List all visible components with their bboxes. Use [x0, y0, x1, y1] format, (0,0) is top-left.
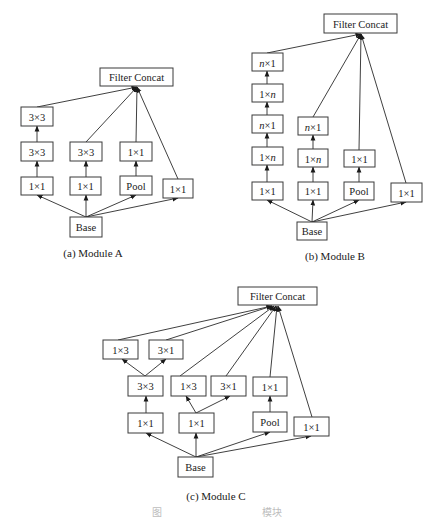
- arrow-edge: [312, 202, 406, 222]
- arrow-edge: [270, 306, 277, 377]
- node-label: 1×1: [259, 186, 275, 197]
- arrow-edge: [37, 195, 86, 217]
- node-label: 1×1: [137, 418, 153, 429]
- arrow-edge: [226, 306, 276, 376]
- node-label: 3×3: [29, 147, 45, 158]
- figure-caption-right: 模块: [262, 507, 282, 517]
- arrow-edge: [86, 198, 178, 217]
- conv-node: n×1: [298, 117, 328, 135]
- conv-node: Pool: [344, 182, 374, 200]
- node-label: Base: [76, 222, 97, 233]
- conv-node: 1×1: [21, 177, 53, 195]
- conv-node: 1×1: [128, 413, 163, 433]
- arrow-edge: [278, 306, 312, 417]
- boxes-layer: Filter Concat3×33×31×13×31×11×1Pool1×1Ba…: [21, 14, 422, 477]
- conv-node: Pool: [253, 412, 287, 432]
- node-label: 1×1: [351, 154, 367, 165]
- inception-modules-figure: Filter Concat3×33×31×13×31×11×1Pool1×1Ba…: [0, 0, 439, 517]
- node-label: 1×1: [305, 186, 321, 197]
- conv-node: n×1: [252, 115, 283, 133]
- base-node: Base: [297, 222, 327, 240]
- arrow-edge: [37, 87, 137, 107]
- conv-node: 1×1: [70, 177, 101, 195]
- arrow-edge: [313, 34, 361, 117]
- node-label: 3×3: [137, 381, 153, 392]
- conv-node: Pool: [120, 176, 152, 195]
- conv-node: n×1: [252, 53, 283, 71]
- node-label: 1×3: [112, 345, 128, 356]
- node-label: 1×1: [262, 382, 278, 393]
- base-node: Base: [178, 457, 213, 477]
- conv-node: 3×3: [21, 107, 53, 126]
- node-label: n×1: [305, 121, 321, 132]
- node-label: 3×3: [29, 112, 45, 123]
- conv-node: 3×1: [149, 340, 183, 359]
- conv-node: 1×1: [391, 183, 422, 202]
- node-label: Base: [302, 226, 323, 237]
- arrow-edge: [359, 34, 361, 150]
- conv-node: 3×1: [211, 376, 246, 396]
- arrow-edge: [122, 359, 145, 376]
- node-label: Pool: [349, 186, 368, 197]
- node-label: 1×1: [398, 188, 414, 199]
- node-label: 1×n: [305, 153, 321, 164]
- arrow-edge: [267, 34, 361, 53]
- module-c-nodes: Filter Concat1×33×13×31×11×33×11×11×1Poo…: [103, 287, 329, 477]
- arrow-edge: [312, 200, 313, 222]
- conv-node: 1×1: [252, 182, 283, 200]
- module-b-edges: [267, 34, 406, 222]
- node-label: 3×1: [158, 345, 174, 356]
- arrow-edge: [136, 87, 137, 142]
- diagram-svg: Filter Concat3×33×31×13×31×11×1Pool1×1Ba…: [0, 0, 439, 517]
- node-label: 3×1: [220, 381, 236, 392]
- arrow-edge: [146, 433, 196, 457]
- node-label: 1×1: [170, 184, 186, 195]
- filter-concat-node: Filter Concat: [100, 68, 173, 86]
- arrow-edge: [180, 306, 274, 376]
- conv-node: 1×1: [294, 417, 329, 436]
- arrow-edge: [86, 195, 136, 217]
- arrow-edge: [137, 87, 178, 179]
- conv-node: 1×1: [179, 413, 214, 433]
- conv-node: 1×3: [171, 376, 206, 396]
- conv-node: 1×1: [298, 182, 328, 200]
- node-label: 1×1: [188, 418, 204, 429]
- conv-node: 1×n: [298, 149, 328, 167]
- conv-node: 1×1: [344, 150, 375, 167]
- node-label: 1×1: [303, 422, 319, 433]
- module-b-nodes: Filter Concatn×11×nn×11×n1×1n×11×n1×11×1…: [252, 14, 422, 240]
- filter-concat-node: Filter Concat: [238, 287, 317, 305]
- node-label: Pool: [260, 417, 279, 428]
- node-label: Filter Concat: [109, 72, 164, 83]
- arrow-edge: [196, 432, 270, 457]
- caption-module-a: (a) Module A: [63, 247, 122, 260]
- conv-node: 1×n: [252, 147, 283, 165]
- node-label: 1×1: [29, 181, 45, 192]
- filter-concat-node: Filter Concat: [324, 14, 397, 33]
- node-label: 1×3: [180, 381, 196, 392]
- conv-node: 1×1: [253, 377, 287, 396]
- node-label: 1×1: [77, 181, 93, 192]
- conv-node: 1×n: [252, 84, 283, 102]
- node-label: n×1: [259, 57, 275, 68]
- arrow-edge: [196, 436, 311, 457]
- node-label: n×1: [259, 119, 275, 130]
- caption-module-c: (c) Module C: [186, 490, 245, 503]
- node-label: 3×3: [78, 147, 94, 158]
- arrow-edge: [145, 359, 166, 376]
- node-label: 1×n: [259, 151, 275, 162]
- arrow-edge: [166, 306, 272, 340]
- conv-node: 3×3: [128, 376, 163, 396]
- module-a-edges: [37, 87, 178, 217]
- arrow-edge: [196, 396, 230, 413]
- conv-node: 3×3: [70, 142, 102, 161]
- conv-node: 1×3: [103, 340, 138, 359]
- node-label: 1×1: [128, 147, 144, 158]
- conv-node: 3×3: [21, 142, 53, 161]
- arrow-edge: [267, 200, 312, 222]
- base-node: Base: [70, 217, 102, 237]
- figure-caption-left: 图: [152, 507, 162, 517]
- node-label: Filter Concat: [250, 291, 305, 302]
- conv-node: 1×1: [120, 142, 152, 161]
- conv-node: 1×1: [163, 179, 193, 198]
